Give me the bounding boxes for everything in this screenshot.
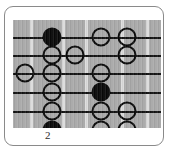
string-line-3 (13, 73, 161, 75)
scale-note-marker-s2-f4 (118, 46, 137, 65)
string-line-4 (13, 92, 161, 94)
scale-note-marker-s4-f1 (43, 83, 62, 102)
fretboard (13, 20, 161, 128)
scale-note-marker-s1-f3 (92, 28, 111, 47)
root-note-marker-s4-f3 (92, 83, 111, 102)
scale-note-marker-s6-f4 (118, 121, 137, 129)
fret-number-label: 2 (5, 129, 165, 141)
scale-note-marker-s3-f1 (43, 64, 62, 83)
string-line-5 (13, 111, 161, 113)
scale-note-marker-s2-f2 (66, 46, 85, 65)
scale-note-marker-s2-f1 (43, 46, 62, 65)
scale-note-marker-s1-f4 (118, 28, 137, 47)
scale-note-marker-s6-f3 (92, 121, 111, 129)
scale-note-marker-s5-f1 (43, 102, 62, 121)
scale-note-marker-s3-f3 (92, 64, 111, 83)
scale-note-marker-s5-f3 (92, 102, 111, 121)
string-line-1 (13, 37, 161, 39)
root-note-marker-s1-f1 (43, 28, 62, 47)
root-note-marker-s6-f1 (43, 121, 62, 129)
scale-note-marker-s5-f4 (118, 102, 137, 121)
fretboard-diagram-card: 2 (4, 6, 164, 146)
scale-note-marker-s3-f0 (16, 64, 35, 83)
string-line-2 (13, 55, 161, 57)
fret-number-value: 2 (45, 129, 51, 141)
